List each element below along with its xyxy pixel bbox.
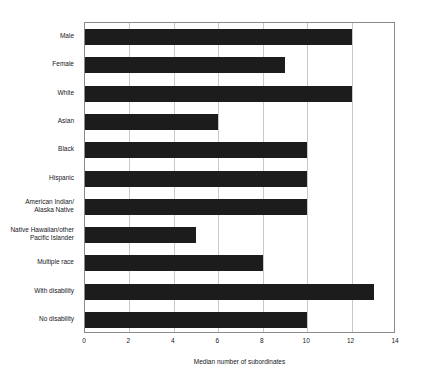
y-tick-label: Male (0, 32, 74, 40)
y-tick-label: Hispanic (0, 174, 74, 182)
bar (85, 312, 307, 328)
bar (85, 227, 196, 243)
y-tick-label: Black (0, 145, 74, 153)
y-tick-label: Multiple race (0, 258, 74, 266)
bar (85, 86, 352, 102)
y-tick-label: Native Hawaiian/other Pacific Islander (0, 226, 74, 242)
bar (85, 284, 374, 300)
y-tick-label: American Indian/ Alaska Native (0, 198, 74, 214)
bars-layer (85, 23, 394, 332)
y-axis-labels: MaleFemaleWhiteAsianBlackHispanicAmerica… (0, 22, 80, 333)
y-tick-label: White (0, 89, 74, 97)
bar-row (85, 114, 218, 130)
y-tick-label: With disability (0, 287, 74, 295)
bar-row (85, 29, 352, 45)
bar-row (85, 284, 374, 300)
bar-chart-figure: MaleFemaleWhiteAsianBlackHispanicAmerica… (0, 0, 423, 386)
x-tick-label: 4 (171, 337, 175, 344)
bar (85, 142, 307, 158)
x-tick-label: 14 (391, 337, 398, 344)
bar-row (85, 86, 352, 102)
bar (85, 199, 307, 215)
bar-row (85, 255, 263, 271)
x-axis-title: Median number of subordinates (84, 358, 395, 365)
bar-row (85, 227, 196, 243)
plot-area (84, 22, 395, 333)
bar-row (85, 142, 307, 158)
bar-row (85, 199, 307, 215)
x-tick-label: 10 (303, 337, 310, 344)
bar (85, 29, 352, 45)
x-axis-labels: 02468101214 (84, 337, 395, 351)
bar (85, 114, 218, 130)
bar-row (85, 171, 307, 187)
bar-row (85, 57, 285, 73)
x-tick-label: 0 (82, 337, 86, 344)
bar (85, 255, 263, 271)
x-tick-label: 12 (347, 337, 354, 344)
bar (85, 57, 285, 73)
y-tick-label: Asian (0, 117, 74, 125)
y-tick-label: No disability (0, 315, 74, 323)
x-tick-label: 2 (127, 337, 131, 344)
y-tick-label: Female (0, 60, 74, 68)
bar-row (85, 312, 307, 328)
x-tick-label: 6 (215, 337, 219, 344)
x-tick-label: 8 (260, 337, 264, 344)
bar (85, 171, 307, 187)
